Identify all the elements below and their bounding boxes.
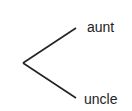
branch-label-uncle: uncle: [84, 91, 118, 107]
tree-diagram: aunt uncle: [0, 0, 132, 111]
branch-line-aunt: [23, 28, 76, 63]
branch-line-uncle: [23, 63, 76, 98]
branch-label-aunt: aunt: [87, 19, 114, 35]
